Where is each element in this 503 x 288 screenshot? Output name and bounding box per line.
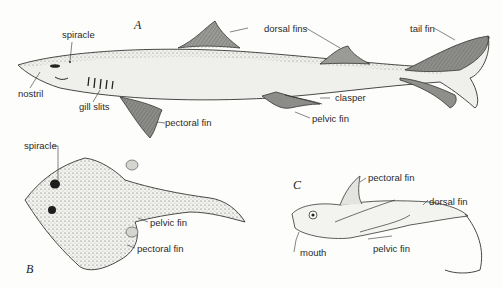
label-a-tail-fin: tail fin bbox=[410, 24, 435, 34]
label-c-mouth: mouth bbox=[300, 248, 326, 258]
label-c-pectoral-fin: pectoral fin bbox=[368, 173, 414, 183]
figure-label-b: B bbox=[26, 262, 33, 277]
anatomy-diagram: A B C spiracle nostril gill slits pector… bbox=[0, 0, 503, 288]
label-a-pelvic-fin: pelvic fin bbox=[312, 114, 349, 124]
label-b-pectoral-fin: pectoral fin bbox=[137, 244, 183, 254]
label-a-clasper: clasper bbox=[335, 93, 366, 103]
label-c-dorsal-fin: dorsal fin bbox=[429, 197, 468, 207]
label-a-gill-slits: gill slits bbox=[79, 102, 110, 112]
figure-label-a: A bbox=[134, 18, 141, 33]
label-a-pectoral-fin: pectoral fin bbox=[165, 118, 211, 128]
label-a-spiracle: spiracle bbox=[62, 30, 95, 40]
label-b-spiracle: spiracle bbox=[24, 141, 57, 151]
label-a-dorsal-fins: dorsal fins bbox=[264, 24, 307, 34]
figure-label-c: C bbox=[293, 178, 301, 193]
label-a-nostril: nostril bbox=[18, 89, 43, 99]
label-b-pelvic-fin: pelvic fin bbox=[150, 218, 187, 228]
illustrations bbox=[0, 0, 503, 288]
skate-illustration bbox=[25, 146, 245, 270]
chimaera-illustration bbox=[292, 176, 482, 273]
label-c-pelvic-fin: pelvic fin bbox=[373, 244, 410, 254]
